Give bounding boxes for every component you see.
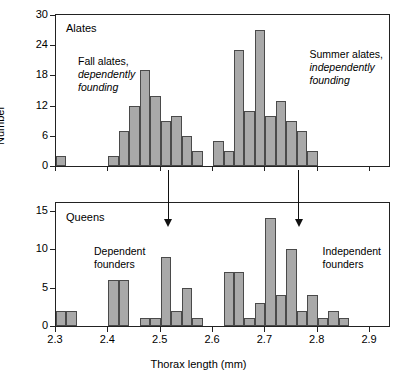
- y-axis-tick-mark: [50, 288, 55, 289]
- x-axis-tick-mark-top-panel: [212, 167, 213, 171]
- histogram-bar: [265, 116, 275, 166]
- histogram-bar: [192, 151, 202, 166]
- histogram-bar: [171, 116, 181, 166]
- histogram-bar: [108, 156, 118, 166]
- x-axis-tick-mark-top-panel: [160, 167, 161, 171]
- arrow-dependent: [168, 170, 169, 220]
- histogram-bar: [171, 311, 181, 326]
- x-axis-tick-label: 2.6: [195, 333, 229, 345]
- histogram-bar: [224, 151, 234, 166]
- histogram-bar: [224, 272, 234, 326]
- x-axis-tick-mark: [264, 327, 265, 332]
- x-axis-tick-mark-top-panel: [264, 167, 265, 171]
- x-axis-tick-label: 2.4: [90, 333, 124, 345]
- y-axis-tick-label: 5: [18, 281, 48, 293]
- histogram-bar: [182, 136, 192, 166]
- y-axis-tick-label: 30: [18, 8, 48, 20]
- y-axis-tick-label: 10: [18, 242, 48, 254]
- x-axis-tick-mark: [160, 327, 161, 332]
- x-axis-tick-mark-top-panel: [55, 167, 56, 171]
- panel-queens: Queens Dependent founders Independent fo…: [55, 202, 390, 327]
- histogram-bar: [276, 101, 286, 166]
- histogram-bar: [307, 151, 317, 166]
- y-axis-tick-mark: [50, 249, 55, 250]
- panel-alates: Alates Fall alates, dependently founding…: [55, 14, 390, 167]
- histogram-bar: [129, 106, 139, 166]
- x-axis-label: Thorax length (mm): [0, 358, 397, 370]
- histogram-bar: [140, 70, 150, 166]
- arrow-dependent-head-icon: [164, 219, 172, 227]
- x-axis-tick-mark: [212, 327, 213, 332]
- y-axis-tick-mark: [50, 15, 55, 16]
- y-axis-tick-mark: [50, 106, 55, 107]
- x-axis-tick-label: 2.9: [352, 333, 386, 345]
- x-axis-tick-mark-top-panel: [369, 167, 370, 171]
- histogram-bar: [328, 311, 338, 326]
- y-axis-tick-label: 6: [18, 129, 48, 141]
- histogram-bar: [108, 280, 118, 326]
- histogram-bar: [255, 30, 265, 166]
- y-axis-tick-label: 0: [18, 319, 48, 331]
- histogram-bar: [119, 280, 129, 326]
- histogram-bar: [192, 318, 202, 326]
- y-axis-tick-label: 24: [18, 38, 48, 50]
- histogram-bar: [161, 121, 171, 166]
- y-axis-tick-mark: [50, 211, 55, 212]
- arrow-independent-head-icon: [295, 219, 303, 227]
- histogram-bar: [213, 141, 223, 166]
- x-axis-tick-mark: [55, 327, 56, 332]
- histogram-bar: [56, 311, 66, 326]
- x-axis-tick-label: 2.7: [247, 333, 281, 345]
- histogram-bar: [150, 96, 160, 166]
- x-axis-tick-mark: [369, 327, 370, 332]
- y-axis-tick-mark: [50, 75, 55, 76]
- y-axis-tick-label: 0: [18, 159, 48, 171]
- x-axis-tick-label: 2.8: [300, 333, 334, 345]
- bars-queens: [56, 203, 389, 326]
- histogram-bar: [276, 295, 286, 326]
- histogram-bar: [161, 257, 171, 326]
- x-axis-tick-mark-top-panel: [107, 167, 108, 171]
- histogram-bar: [234, 50, 244, 166]
- bars-alates: [56, 15, 389, 166]
- histogram-bar: [339, 318, 349, 326]
- histogram-bar: [265, 218, 275, 326]
- histogram-bar: [234, 272, 244, 326]
- y-axis-tick-label: 12: [18, 99, 48, 111]
- histogram-figure: Number Alates Fall alates, dependently f…: [0, 0, 397, 379]
- histogram-bar: [244, 318, 254, 326]
- y-axis-tick-label: 18: [18, 68, 48, 80]
- histogram-bar: [56, 156, 66, 166]
- x-axis-tick-label: 2.5: [143, 333, 177, 345]
- histogram-bar: [140, 318, 150, 326]
- histogram-bar: [286, 249, 296, 326]
- y-axis-tick-label: 15: [18, 204, 48, 216]
- histogram-bar: [297, 311, 307, 326]
- y-axis-tick-mark: [50, 136, 55, 137]
- y-axis-tick-mark: [50, 45, 55, 46]
- histogram-bar: [182, 288, 192, 326]
- histogram-bar: [318, 318, 328, 326]
- histogram-bar: [297, 131, 307, 166]
- histogram-bar: [286, 121, 296, 166]
- histogram-bar: [119, 131, 129, 166]
- histogram-bar: [255, 303, 265, 326]
- arrow-independent: [298, 170, 299, 220]
- x-axis-tick-mark-top-panel: [317, 167, 318, 171]
- x-axis-tick-mark: [107, 327, 108, 332]
- histogram-bar: [307, 295, 317, 326]
- histogram-bar: [66, 311, 76, 326]
- histogram-bar: [244, 111, 254, 166]
- x-axis-tick-label: 2.3: [38, 333, 72, 345]
- y-axis-label: Number: [0, 106, 6, 145]
- histogram-bar: [150, 318, 160, 326]
- x-axis-tick-mark: [317, 327, 318, 332]
